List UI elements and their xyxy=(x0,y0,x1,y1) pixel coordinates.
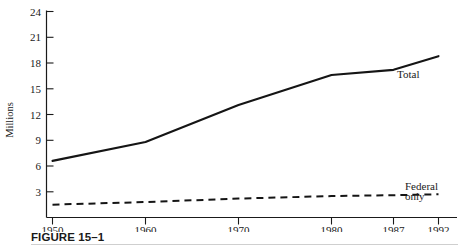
line-chart: 24 21 18 15 12 9 6 3 Millions 1950 1960 … xyxy=(0,0,458,232)
y-tick-label-9: 9 xyxy=(36,134,42,146)
y-tick-label-18: 18 xyxy=(30,57,42,69)
y-tick-label-24: 24 xyxy=(30,6,42,18)
figure-caption: FIGURE 15–1 xyxy=(0,231,458,246)
y-tick-label-6: 6 xyxy=(36,160,42,172)
y-tick-label-21: 21 xyxy=(30,31,41,43)
series-line-total xyxy=(53,56,439,161)
figure-container: 24 21 18 15 12 9 6 3 Millions 1950 1960 … xyxy=(0,0,458,246)
series-line-federal-only xyxy=(53,194,439,204)
y-axis-title: Millions xyxy=(4,102,15,138)
y-tick-label-12: 12 xyxy=(30,109,41,121)
x-axis-group: 1950 1960 1970 1980 1987 1992 xyxy=(42,218,458,233)
y-axis-group: 24 21 18 15 12 9 6 3 Millions xyxy=(4,6,54,218)
figure-caption-number: FIGURE 15–1 xyxy=(31,231,104,243)
series-label-total: Total xyxy=(397,68,419,80)
y-tick-label-15: 15 xyxy=(30,83,42,95)
series-group xyxy=(53,56,439,205)
y-tick-label-3: 3 xyxy=(36,186,42,198)
series-label-federal-line2: only xyxy=(405,190,425,202)
series-labels-group: Total Federal only xyxy=(397,68,438,202)
